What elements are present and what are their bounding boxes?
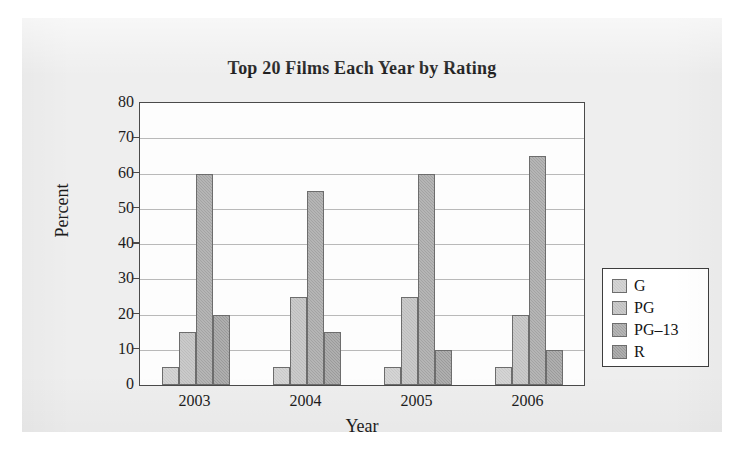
chart-screenshot: Top 20 Films Each Year by Rating Percent… (0, 0, 752, 460)
bar (196, 174, 213, 386)
legend-item: PG (612, 297, 708, 319)
x-axis-tick-label: 2006 (483, 392, 573, 410)
gridline (140, 138, 584, 139)
y-axis-tick-label: 40 (94, 234, 134, 252)
y-axis-tick-label: 20 (94, 305, 134, 323)
bar (495, 367, 512, 385)
legend-item: PG–13 (612, 319, 708, 341)
bar (324, 332, 341, 385)
bar (179, 332, 196, 385)
legend-item-label: G (634, 278, 646, 294)
legend-item-label: R (634, 344, 645, 360)
legend-item: G (612, 275, 708, 297)
bar (162, 367, 179, 385)
legend-item: R (612, 341, 708, 363)
legend-swatch-icon (612, 301, 627, 315)
y-axis-tick-label: 0 (94, 375, 134, 393)
bar (418, 174, 435, 386)
plot-area (139, 102, 585, 386)
bar (384, 367, 401, 385)
legend-swatch-icon (612, 323, 627, 337)
bar (435, 350, 452, 385)
x-axis-tick-label: 2004 (261, 392, 351, 410)
x-axis-title: Year (139, 416, 585, 437)
y-axis-tick-label: 10 (94, 340, 134, 358)
y-axis-tick-label: 30 (94, 269, 134, 287)
x-axis-tick-labels: 2003200420052006 (139, 392, 585, 416)
legend-swatch-icon (612, 279, 627, 293)
y-axis-tick-label: 80 (94, 93, 134, 111)
chart-legend: GPGPG–13R (602, 268, 709, 367)
bar (290, 297, 307, 385)
x-axis-tick-label: 2003 (150, 392, 240, 410)
x-axis-tick-label: 2005 (372, 392, 462, 410)
chart-title: Top 20 Films Each Year by Rating (139, 58, 585, 79)
y-axis-tick-label: 50 (94, 199, 134, 217)
y-axis-tick-label: 60 (94, 164, 134, 182)
bar (307, 191, 324, 385)
bar (401, 297, 418, 385)
bar (529, 156, 546, 385)
y-axis-tick-labels: 01020304050607080 (90, 102, 134, 386)
bar (546, 350, 563, 385)
y-axis-title: Percent (52, 131, 73, 291)
legend-item-label: PG (634, 300, 654, 316)
y-axis-tick-label: 70 (94, 128, 134, 146)
figure-panel: Top 20 Films Each Year by Rating Percent… (22, 18, 722, 432)
bar (273, 367, 290, 385)
bar (512, 315, 529, 386)
legend-swatch-icon (612, 345, 627, 359)
legend-item-label: PG–13 (634, 322, 678, 338)
bar (213, 315, 230, 386)
